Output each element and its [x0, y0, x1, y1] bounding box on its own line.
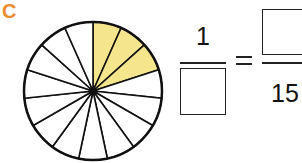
equals-sign-top — [236, 56, 252, 58]
left-numerator: 1 — [196, 24, 210, 49]
right-fraction-bar — [262, 62, 302, 64]
fraction-circle — [0, 0, 170, 163]
right-numerator-input-box[interactable] — [262, 9, 302, 55]
left-denominator-input-box[interactable] — [180, 68, 226, 115]
equals-sign-bottom — [236, 63, 252, 65]
left-fraction-bar — [180, 62, 226, 64]
right-denominator: 15 — [271, 81, 299, 106]
